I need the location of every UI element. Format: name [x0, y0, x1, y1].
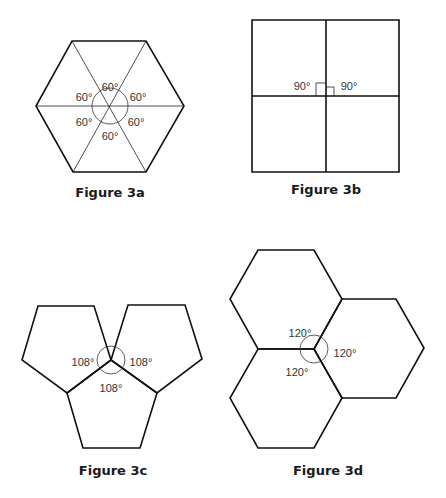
pentagon-polygon [22, 306, 111, 393]
hexagon-tiling-polygon [314, 299, 424, 398]
figure-3a-hexagon-angles: 60°60°60°60°60°60° Figure 3a [36, 41, 184, 200]
hexagon-geometry [36, 41, 184, 172]
right-angle-mark [326, 87, 334, 96]
hexagon-polygon [36, 41, 184, 172]
angle-label: 60° [102, 81, 119, 93]
hexagon-tiling-polygon [230, 250, 342, 349]
angle-label: 60° [130, 91, 147, 103]
angle-label: 60° [102, 130, 119, 142]
figure-caption: Figure 3c [79, 463, 147, 478]
angle-label: 120° [289, 327, 312, 339]
right-angle-mark [316, 83, 326, 96]
angle-label: 60° [76, 116, 93, 128]
figure-caption: Figure 3d [293, 463, 363, 478]
figure-3c-pentagon-angles: 108°108°108° Figure 3c [22, 305, 202, 478]
angle-labels: 60°60°60°60°60°60° [76, 81, 147, 142]
angle-label: 120° [334, 347, 357, 359]
figure-sheet: 60°60°60°60°60°60° Figure 3a 90°90° Figu… [0, 0, 446, 498]
angle-label: 120° [286, 366, 309, 378]
angle-label: 108° [100, 382, 123, 394]
figure-3d-hexagon-tiling-angles: 120°120°120° Figure 3d [230, 250, 424, 478]
angle-label: 108° [130, 356, 153, 368]
pentagon-geometry [22, 305, 202, 448]
angle-label: 108° [72, 356, 95, 368]
figure-3b-square-angles: 90°90° Figure 3b [252, 20, 399, 197]
angle-label: 90° [341, 80, 358, 92]
angle-label: 60° [128, 116, 145, 128]
hexagon-tiling-polygon [230, 349, 342, 448]
figure-caption: Figure 3b [291, 182, 361, 197]
pentagon-polygon [111, 305, 202, 393]
hexagon-tiling-geometry [230, 250, 424, 448]
square-geometry [252, 20, 399, 172]
figure-caption: Figure 3a [75, 185, 144, 200]
angle-label: 60° [76, 91, 93, 103]
angle-label: 90° [294, 80, 311, 92]
pentagon-polygon [67, 360, 157, 448]
angle-labels: 120°120°120° [286, 327, 357, 378]
